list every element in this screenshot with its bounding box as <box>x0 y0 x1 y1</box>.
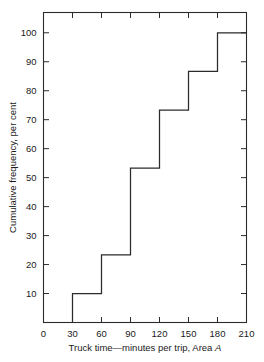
cumulative-frequency-chart: 0306090120150180210102030405060708090100… <box>0 0 264 362</box>
y-tick-label-80: 80 <box>26 85 37 96</box>
chart-canvas: 0306090120150180210102030405060708090100… <box>0 0 264 362</box>
x-tick-label-0: 0 <box>41 328 46 339</box>
y-tick-label-90: 90 <box>26 56 37 67</box>
y-axis-title: Cumulative frequency, per cent <box>7 102 18 233</box>
y-tick-label-30: 30 <box>26 230 37 241</box>
y-tick-label-70: 70 <box>26 114 37 125</box>
y-tick-label-40: 40 <box>26 201 37 212</box>
x-tick-label-180: 180 <box>210 328 226 339</box>
y-tick-label-100: 100 <box>21 27 37 38</box>
x-tick-label-90: 90 <box>125 328 136 339</box>
x-axis-title-text: Truck time—minutes per trip, Area <box>69 342 215 353</box>
x-tick-label-150: 150 <box>181 328 197 339</box>
y-tick-label-50: 50 <box>26 172 37 183</box>
x-tick-label-120: 120 <box>152 328 168 339</box>
y-tick-label-10: 10 <box>26 288 37 299</box>
y-tick-label-20: 20 <box>26 259 37 270</box>
y-tick-label-60: 60 <box>26 143 37 154</box>
x-tick-label-30: 30 <box>67 328 78 339</box>
x-tick-label-60: 60 <box>96 328 107 339</box>
x-axis-title: Truck time—minutes per trip, Area A <box>69 342 222 353</box>
x-axis-title-area-symbol: A <box>214 342 221 353</box>
x-tick-label-210: 210 <box>239 328 255 339</box>
cumulative-frequency-step-line <box>73 33 247 323</box>
